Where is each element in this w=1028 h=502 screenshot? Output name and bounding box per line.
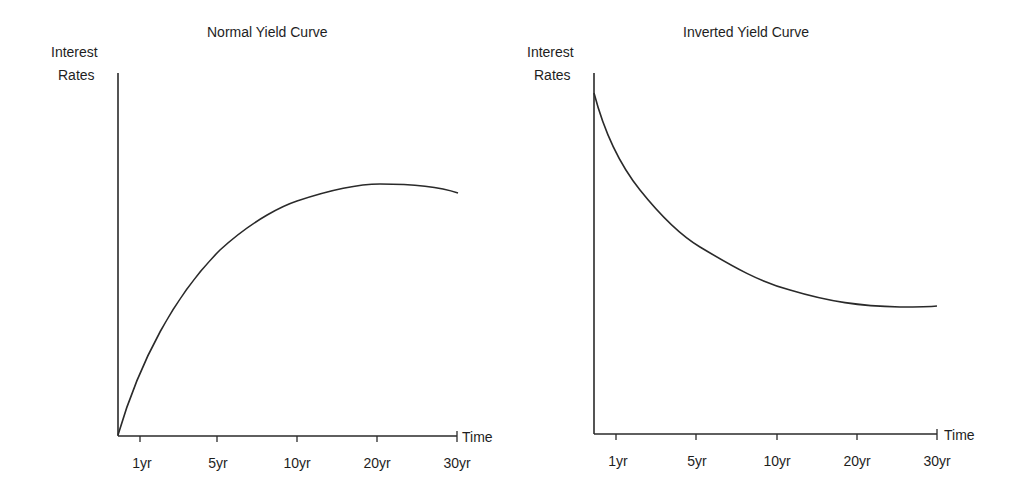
- x-tick-label: 30yr: [923, 453, 950, 469]
- y-axis-label-line1: Interest: [527, 44, 574, 60]
- x-tick-label: 10yr: [763, 453, 790, 469]
- inverted-yield-curve-line: [594, 93, 937, 307]
- chart-title: Inverted Yield Curve: [683, 24, 809, 40]
- inverted-yield-curve-chart: Inverted Yield Curve Interest Rates Time…: [0, 0, 1028, 502]
- x-tick-label: 20yr: [843, 453, 870, 469]
- x-axis-label: Time: [944, 427, 975, 443]
- inverted-yield-curve-plot: [0, 0, 1028, 502]
- x-tick-label: 1yr: [608, 453, 627, 469]
- y-axis-label-line2: Rates: [534, 67, 571, 83]
- x-tick-label: 5yr: [687, 453, 706, 469]
